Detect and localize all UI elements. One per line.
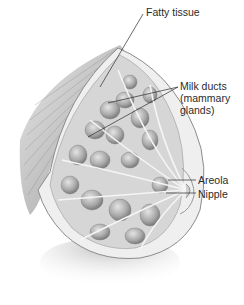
label-milk-ducts-line-2: (mammary bbox=[180, 92, 240, 104]
label-nipple: Nipple bbox=[198, 188, 228, 200]
breast-anatomy-illustration bbox=[0, 0, 244, 305]
label-fatty-tissue: Fatty tissue bbox=[146, 6, 200, 18]
label-milk-ducts-line-1: Milk ducts bbox=[180, 80, 240, 92]
label-milk-ducts-line-3: glands) bbox=[180, 104, 240, 116]
label-areola: Areola bbox=[198, 174, 228, 186]
label-milk-ducts: Milk ducts (mammary glands) bbox=[180, 80, 240, 116]
